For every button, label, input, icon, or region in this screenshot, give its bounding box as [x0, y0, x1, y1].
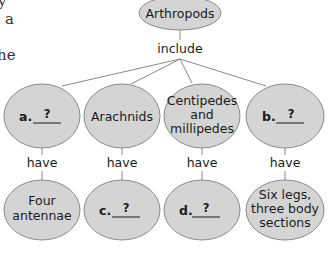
centipedes-label-line: millipedes [170, 121, 234, 136]
feature-label-line: Four [28, 193, 56, 208]
feature-label-line: three body [251, 201, 320, 216]
have-link-label: have [27, 155, 58, 170]
blank-letter-c: c. [99, 203, 111, 218]
feature-label-line: sections [259, 215, 311, 230]
group-node-centipedes-millipedes: Centipedes and millipedes [164, 84, 240, 148]
group-node-b: b. ? [246, 84, 324, 148]
feature-label-line: antennae [12, 208, 72, 223]
have-link-label: have [270, 155, 301, 170]
feature-node-c: c. ? [84, 180, 160, 240]
concept-map: Arthropods include a. ? Arachnids Centip… [0, 0, 332, 253]
root-node-arthropods: Arthropods [139, 0, 221, 30]
arachnids-label: Arachnids [91, 109, 153, 124]
have-link-label: have [107, 155, 138, 170]
root-label: Arthropods [145, 6, 214, 21]
centipedes-label-line: and [190, 107, 214, 122]
feature-node-four-antennae: Four antennae [4, 180, 80, 240]
blank-letter-a: a. [19, 109, 32, 124]
group-node-a: a. ? [4, 84, 80, 148]
feature-node-d: d. ? [164, 180, 240, 240]
blank-letter-d: d. [179, 203, 193, 218]
group-node-arachnids: Arachnids [84, 84, 160, 148]
question-mark: ? [288, 107, 295, 121]
centipedes-label-line: Centipedes [167, 93, 237, 108]
have-link-label: have [187, 155, 218, 170]
blank-letter-b: b. [262, 109, 276, 124]
feature-node-six-legs: Six legs, three body sections [246, 180, 324, 240]
question-mark: ? [203, 201, 210, 215]
question-mark: ? [123, 201, 130, 215]
feature-label-line: Six legs, [259, 187, 311, 202]
include-link-label: include [157, 41, 203, 56]
question-mark: ? [44, 107, 51, 121]
